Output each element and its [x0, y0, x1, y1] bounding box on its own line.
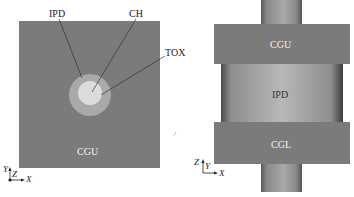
ch-channel-core: [78, 81, 102, 105]
ipd-cylinder-label: IPD: [272, 89, 288, 100]
stray-mark: [174, 132, 176, 136]
bottom-rod: [261, 163, 302, 192]
tox-label: TOX: [165, 47, 186, 58]
cgu-label: CGU: [77, 146, 99, 157]
x-axis-label: X: [218, 168, 225, 178]
device-structure-figure: IPD CH TOX CGU Y Z X CGU IPD CGL: [0, 0, 354, 197]
top-rod: [261, 0, 302, 25]
ipd-label: IPD: [49, 8, 65, 19]
ch-label: CH: [129, 8, 143, 19]
cgl-block-label: CGL: [271, 139, 291, 150]
cgu-block-label: CGU: [270, 39, 292, 50]
z-axis-label: Z: [194, 157, 200, 167]
y-axis-label: Y: [205, 161, 211, 171]
side-view: CGU IPD CGL Z Y X: [194, 0, 350, 192]
x-axis-label: X: [25, 174, 32, 184]
y-axis-label: Y: [3, 164, 9, 174]
cross-section-view: IPD CH TOX CGU Y Z X: [3, 8, 186, 184]
z-axis-label: Z: [12, 169, 18, 179]
